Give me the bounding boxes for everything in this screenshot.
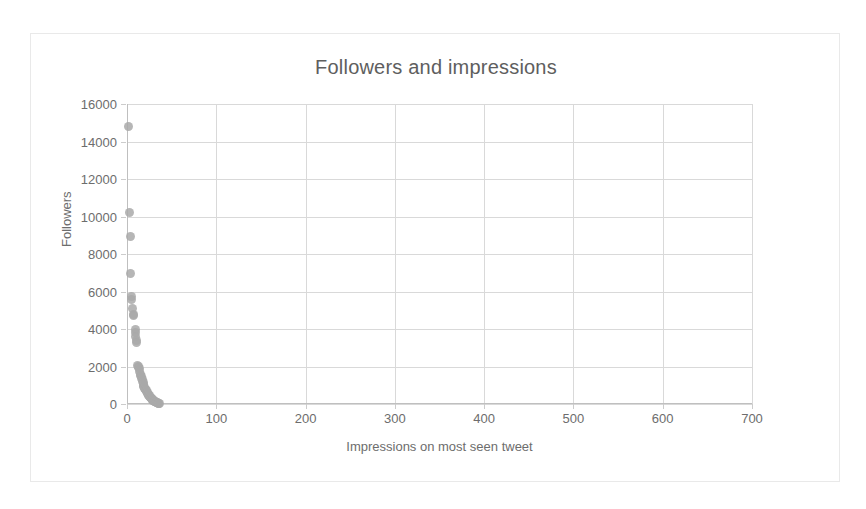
x-axis-tick: [484, 404, 485, 409]
gridline-vertical: [395, 104, 396, 404]
chart-title: Followers and impressions: [31, 56, 841, 79]
x-axis-tick: [663, 404, 664, 409]
y-axis-title: Followers: [59, 191, 74, 247]
y-axis-tick: [121, 142, 126, 143]
scatter-point: [126, 269, 135, 278]
gridline-vertical: [573, 104, 574, 404]
x-axis-tick: [216, 404, 217, 409]
x-axis-title: Impressions on most seen tweet: [127, 439, 752, 454]
y-axis-tick-label: 10000: [81, 209, 117, 224]
gridline-vertical: [752, 104, 753, 404]
y-axis-tick-label: 2000: [88, 359, 117, 374]
x-axis-tick: [752, 404, 753, 409]
y-axis-tick: [121, 254, 126, 255]
y-axis-tick-label: 14000: [81, 134, 117, 149]
gridline-horizontal: [127, 404, 752, 405]
y-axis-tick: [121, 179, 126, 180]
x-axis-tick: [395, 404, 396, 409]
gridline-horizontal: [127, 179, 752, 180]
scatter-point: [126, 232, 135, 241]
gridline-vertical: [663, 104, 664, 404]
plot-area: 0200040006000800010000120001400016000 01…: [127, 104, 752, 404]
y-axis-tick: [121, 217, 126, 218]
chart-frame: Followers and impressions Followers Impr…: [30, 33, 840, 482]
x-axis-tick-label: 400: [473, 411, 495, 426]
y-axis-tick-label: 6000: [88, 284, 117, 299]
y-axis-tick-label: 16000: [81, 97, 117, 112]
gridline-horizontal: [127, 292, 752, 293]
y-axis-tick: [121, 404, 126, 405]
gridline-vertical: [484, 104, 485, 404]
scatter-point: [124, 122, 133, 131]
x-axis-tick-label: 300: [384, 411, 406, 426]
y-axis-tick: [121, 292, 126, 293]
scatter-point: [132, 338, 141, 347]
x-axis-line: [127, 403, 752, 404]
x-axis-tick: [306, 404, 307, 409]
x-axis-tick-label: 500: [563, 411, 585, 426]
x-axis-tick-label: 0: [123, 411, 130, 426]
y-axis-tick-label: 4000: [88, 322, 117, 337]
y-axis-tick-label: 12000: [81, 172, 117, 187]
gridline-vertical: [306, 104, 307, 404]
x-axis-tick-label: 700: [741, 411, 763, 426]
gridline-horizontal: [127, 367, 752, 368]
gridline-horizontal: [127, 329, 752, 330]
scatter-point: [129, 311, 138, 320]
scatter-point: [155, 399, 164, 408]
x-axis-tick-label: 200: [295, 411, 317, 426]
x-axis-tick-label: 100: [205, 411, 227, 426]
gridline-horizontal: [127, 217, 752, 218]
x-axis-tick: [573, 404, 574, 409]
x-axis-tick: [127, 404, 128, 409]
y-axis-tick: [121, 329, 126, 330]
y-axis-line: [127, 104, 128, 404]
y-axis-tick: [121, 367, 126, 368]
gridline-horizontal: [127, 254, 752, 255]
y-axis-tick-label: 8000: [88, 247, 117, 262]
gridline-horizontal: [127, 142, 752, 143]
x-axis-tick-label: 600: [652, 411, 674, 426]
gridline-vertical: [216, 104, 217, 404]
gridline-horizontal: [127, 104, 752, 105]
y-axis-tick: [121, 104, 126, 105]
y-axis-tick-label: 0: [110, 397, 117, 412]
